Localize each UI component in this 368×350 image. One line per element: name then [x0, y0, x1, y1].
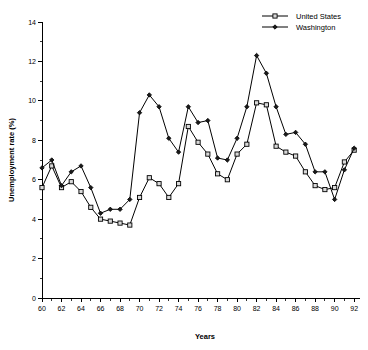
data-point-marker [108, 207, 112, 211]
data-point-marker [264, 103, 268, 107]
y-axis-tick-label: 8 [32, 137, 36, 144]
data-point-marker [206, 152, 210, 156]
data-point-marker [342, 160, 346, 164]
x-axis-title: Years [195, 332, 215, 341]
x-axis-tick-label: 74 [175, 305, 183, 312]
data-point-marker [294, 154, 298, 158]
data-point-marker [332, 197, 336, 201]
chart-canvas: 02468101214 6062646668707274767880828486… [0, 0, 368, 350]
data-point-marker [245, 105, 249, 109]
x-axis-tick-label: 76 [194, 305, 202, 312]
data-point-marker [137, 195, 141, 199]
x-axis-tick-label: 92 [350, 305, 358, 312]
data-point-marker [284, 132, 288, 136]
data-point-marker [147, 176, 151, 180]
x-axis-tick-label: 78 [214, 305, 222, 312]
data-point-marker [69, 180, 73, 184]
x-axis-tick-label: 86 [292, 305, 300, 312]
data-point-marker [342, 168, 346, 172]
x-axis-tick-label: 88 [311, 305, 319, 312]
data-point-marker [137, 110, 141, 114]
data-point-marker [215, 156, 219, 160]
data-point-marker [108, 219, 112, 223]
data-point-marker [89, 185, 93, 189]
y-axis-tick-label: 12 [28, 58, 36, 65]
data-point-marker [254, 53, 258, 57]
data-point-marker [98, 211, 102, 215]
data-point-marker [186, 124, 190, 128]
y-axis-title: Unemployment rate (%) [7, 118, 16, 202]
y-axis-tick-label: 14 [28, 19, 36, 26]
data-point-marker [255, 101, 259, 105]
series-polyline [42, 56, 354, 214]
data-point-marker [98, 217, 102, 221]
legend-item-label: Washington [296, 23, 335, 32]
data-point-marker [274, 144, 278, 148]
x-axis-tick-label: 68 [116, 305, 124, 312]
chart-legend: United StatesWashington [262, 12, 341, 32]
y-axis-tick-label: 6 [32, 176, 36, 183]
data-point-marker [215, 172, 219, 176]
data-point-marker [313, 170, 317, 174]
data-point-marker [313, 184, 317, 188]
legend-item-label: United States [296, 12, 341, 21]
data-point-marker [89, 205, 93, 209]
data-point-marker [118, 221, 122, 225]
x-axis-tick-label: 80 [233, 305, 241, 312]
data-point-marker [273, 25, 277, 29]
data-point-marker [128, 223, 132, 227]
data-point-marker [235, 136, 239, 140]
data-point-marker [264, 71, 268, 75]
data-point-marker [235, 152, 239, 156]
y-axis: 02468101214 [28, 19, 42, 302]
x-axis-tick-label: 60 [38, 305, 46, 312]
legend-item: Washington [262, 23, 335, 32]
x-axis-tick-label: 70 [136, 305, 144, 312]
x-axis-tick-label: 64 [77, 305, 85, 312]
data-point-marker [176, 182, 180, 186]
data-series-group [40, 53, 357, 227]
unemployment-rate-chart: 02468101214 6062646668707274767880828486… [0, 0, 368, 350]
x-axis-tick-label: 62 [58, 305, 66, 312]
data-point-marker [79, 189, 83, 193]
data-point-marker [79, 164, 83, 168]
x-axis-tick-label: 82 [253, 305, 261, 312]
y-axis-tick-label: 10 [28, 97, 36, 104]
data-point-marker [225, 178, 229, 182]
data-point-marker [284, 150, 288, 154]
x-axis: 6062646668707274767880828486889092 [38, 298, 360, 312]
data-point-marker [323, 170, 327, 174]
legend-item: United States [262, 12, 341, 21]
y-axis-tick-label: 2 [32, 255, 36, 262]
y-axis-tick-label: 4 [32, 216, 36, 223]
y-axis-tick-label: 0 [32, 295, 36, 302]
data-point-marker [245, 142, 249, 146]
data-point-marker [225, 158, 229, 162]
data-point-marker [206, 118, 210, 122]
x-axis-tick-label: 66 [97, 305, 105, 312]
data-point-marker [167, 195, 171, 199]
series-washington [40, 53, 357, 215]
x-axis-tick-label: 72 [155, 305, 163, 312]
x-axis-tick-label: 84 [272, 305, 280, 312]
data-point-marker [323, 187, 327, 191]
data-point-marker [40, 186, 44, 190]
series-united-states [40, 101, 356, 227]
data-point-marker [303, 170, 307, 174]
data-point-marker [157, 182, 161, 186]
data-point-marker [274, 105, 278, 109]
data-point-marker [333, 186, 337, 190]
data-point-marker [273, 14, 277, 18]
x-axis-tick-label: 90 [331, 305, 339, 312]
data-point-marker [196, 140, 200, 144]
